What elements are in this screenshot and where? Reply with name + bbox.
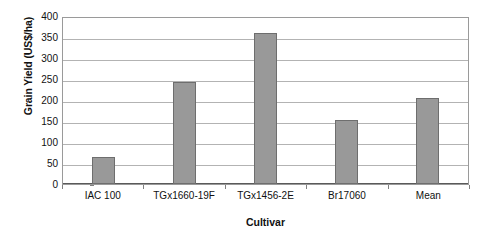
x-axis-tick-mark [225,185,226,189]
bar-slot [306,18,387,184]
bar[interactable] [416,98,439,184]
y-axis-tick-label: 50 [30,159,58,169]
x-axis-tick-labels: IAC 100TGx1660-19FTGx1456-2EBr17060Mean [62,190,469,202]
bar-chart: Grain Yield (US$/ha) 0501001502002503003… [0,0,481,240]
plot-area [62,17,469,185]
x-axis-tick-label: Mean [388,190,469,202]
y-axis-tick-label: 350 [30,33,58,43]
y-axis-tick-labels: 050100150200250300350400 [30,17,58,185]
bar-slot [144,18,225,184]
y-axis-tick-label: 200 [30,96,58,106]
x-axis-tick-mark [388,185,389,189]
bar[interactable] [335,120,358,184]
y-axis-tick-label: 0 [30,180,58,190]
x-axis-tick-label: IAC 100 [62,190,143,202]
bar-slot [387,18,468,184]
x-axis-tick-label: TGx1456-2E [225,190,306,202]
bar-slot [225,18,306,184]
x-axis-tick-mark [306,185,307,189]
x-axis-tick-mark [62,185,63,189]
y-axis-tick-label: 250 [30,75,58,85]
x-axis-tick-mark [143,185,144,189]
x-axis-tick-label: TGx1660-19F [143,190,224,202]
x-axis-title: Cultivar [62,216,469,228]
y-axis-tick-label: 400 [30,12,58,22]
y-axis-tick-label: 100 [30,138,58,148]
y-axis-tick-label: 300 [30,54,58,64]
bar[interactable] [92,157,115,184]
x-axis-tick-label: Br17060 [306,190,387,202]
bar[interactable] [173,82,196,184]
y-axis-tick-label: 150 [30,117,58,127]
x-axis-tick-mark [469,185,470,189]
bar-slot [63,18,144,184]
bar[interactable] [254,33,277,184]
bars-layer [63,18,468,184]
